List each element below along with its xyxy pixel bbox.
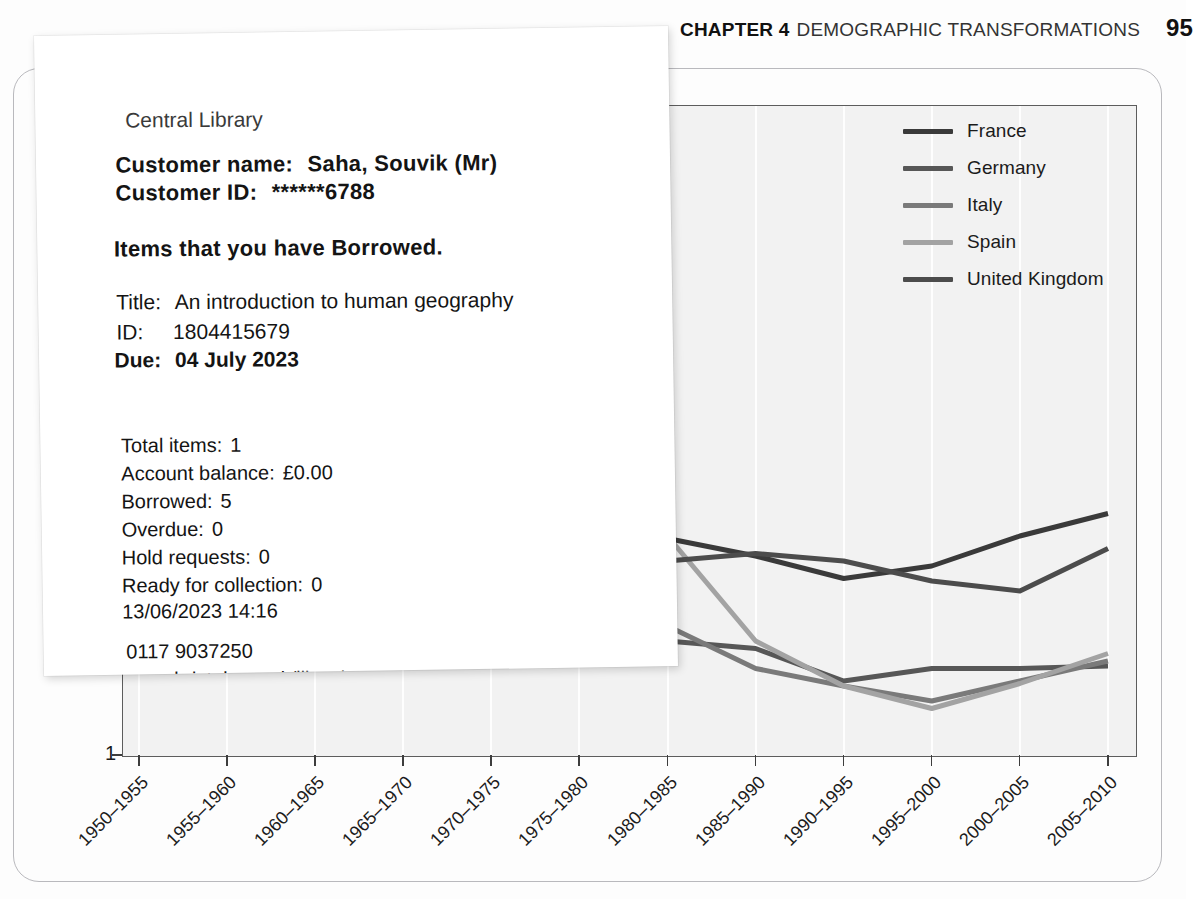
legend-label: United Kingdom [967, 268, 1104, 290]
x-tick-mark [314, 755, 316, 766]
legend-item[interactable]: Germany [903, 157, 1153, 179]
x-tick-mark [667, 755, 669, 766]
item-due-value: 04 July 2023 [175, 347, 299, 371]
receipt-summary-row: Overdue:0 [122, 518, 224, 542]
summary-label: Ready for collection: [122, 573, 303, 596]
receipt-phone: 0117 9037250 [126, 640, 253, 664]
receipt-branch: Central Library [125, 108, 263, 133]
customer-id-label: Customer ID: [115, 180, 257, 206]
x-tick-mark [402, 755, 404, 766]
running-head: CHAPTER 4 DEMOGRAPHIC TRANSFORMATIONS 95 [680, 14, 1160, 48]
legend-swatch [903, 277, 953, 282]
item-title-label: Title: [116, 290, 161, 313]
x-tick-mark [138, 755, 140, 766]
page-number: 95 [1166, 14, 1193, 42]
legend-item[interactable]: France [903, 120, 1153, 142]
legend-item[interactable]: United Kingdom [903, 268, 1153, 290]
running-head-chapter: CHAPTER 4 [680, 19, 789, 41]
summary-value: 1 [230, 434, 241, 456]
legend-swatch [903, 240, 953, 245]
receipt-summary-row: Account balance:£0.00 [121, 461, 333, 485]
x-tick-mark [1107, 755, 1109, 766]
item-id-label: ID: [116, 320, 143, 343]
legend-swatch [903, 166, 953, 171]
receipt-section-heading: Items that you have Borrowed. [114, 234, 443, 262]
item-due-label: Due: [114, 348, 161, 371]
legend-label: Spain [967, 231, 1016, 253]
x-tick-mark [1019, 755, 1021, 766]
receipt-item-due: Due: 04 July 2023 [114, 347, 298, 372]
legend-swatch [903, 203, 953, 208]
customer-name-label: Customer name: [115, 151, 293, 177]
legend-swatch [903, 129, 953, 134]
summary-label: Total items: [121, 434, 222, 457]
receipt-summary-row: Hold requests:0 [122, 546, 270, 570]
summary-value: £0.00 [283, 461, 333, 483]
summary-label: Overdue: [122, 518, 204, 541]
item-id-value: 1804415679 [173, 319, 290, 343]
customer-id-value: ******6788 [272, 179, 375, 205]
receipt-timestamp: 13/06/2023 14:16 [122, 599, 278, 623]
receipt-summary-row: Borrowed:5 [121, 490, 231, 514]
chart-legend: FranceGermanyItalySpainUnited Kingdom [903, 120, 1153, 290]
x-tick-mark [755, 755, 757, 766]
summary-label: Account balance: [121, 461, 275, 484]
x-tick-mark [931, 755, 933, 766]
receipt-customer-name: Customer name: Saha, Souvik (Mr) [115, 150, 497, 178]
summary-value: 0 [311, 573, 322, 595]
receipt-summary-row: Total items:1 [121, 434, 241, 458]
summary-value: 0 [212, 518, 223, 540]
x-tick-mark [226, 755, 228, 766]
x-tick-mark [490, 755, 492, 766]
legend-label: Germany [967, 157, 1046, 179]
x-tick-mark [578, 755, 580, 766]
summary-label: Hold requests: [122, 546, 251, 569]
receipt-item-title: Title: An introduction to human geograph… [116, 288, 513, 314]
summary-label: Borrowed: [121, 490, 212, 513]
customer-name-value: Saha, Souvik (Mr) [307, 150, 497, 176]
receipt-item-id: ID: 1804415679 [116, 319, 290, 344]
legend-label: Italy [967, 194, 1002, 216]
receipt-summary-row: Ready for collection:0 [122, 573, 322, 597]
receipt-customer-id: Customer ID: ******6788 [115, 179, 375, 207]
receipt-summary: Total items:1Account balance:£0.00Borrow… [35, 31, 669, 35]
legend-item[interactable]: Spain [903, 231, 1153, 253]
summary-value: 0 [259, 546, 270, 568]
x-tick-mark [843, 755, 845, 766]
summary-value: 5 [221, 490, 232, 512]
legend-item[interactable]: Italy [903, 194, 1153, 216]
library-receipt: Central Library Customer name: Saha, Sou… [34, 26, 678, 676]
item-title-value: An introduction to human geography [175, 288, 514, 313]
legend-label: France [967, 120, 1027, 142]
running-head-title: DEMOGRAPHIC TRANSFORMATIONS [796, 19, 1140, 41]
